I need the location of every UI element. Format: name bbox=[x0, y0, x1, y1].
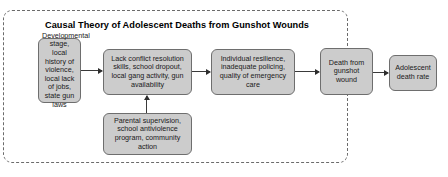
node-death-from-gunshot-wound[interactable]: Death from gunshot wound bbox=[320, 48, 373, 95]
node-lack-conflict-resolution[interactable]: Lack conflict resolution skills, school … bbox=[103, 49, 192, 95]
node-parental-supervision[interactable]: Parental supervision, school antiviolenc… bbox=[103, 113, 192, 155]
arrow-right-icon-death-to-rate bbox=[373, 72, 388, 73]
diagram-title: Causal Theory of Adolescent Deaths from … bbox=[18, 20, 336, 31]
arrow-up-icon-parental-to-conflict bbox=[146, 96, 147, 113]
node-individual-resilience[interactable]: Individual resilience, inadequate polici… bbox=[211, 49, 295, 95]
arrow-right-icon-conflict-to-resilience bbox=[192, 71, 210, 72]
node-parental-supervision-label: Parental supervision, school antiviolenc… bbox=[107, 117, 188, 151]
arrow-right-icon-resilience-to-death bbox=[295, 71, 319, 72]
diagram-canvas: Causal Theory of Adolescent Deaths from … bbox=[0, 0, 448, 177]
node-lack-conflict-resolution-label: Lack conflict resolution skills, school … bbox=[107, 55, 188, 89]
node-adolescent-death-rate[interactable]: Adolescent death rate bbox=[389, 55, 437, 91]
arrow-right-icon-developmental-to-conflict bbox=[81, 70, 102, 71]
node-adolescent-death-rate-label: Adolescent death rate bbox=[393, 64, 433, 81]
node-developmental-stage-label: Developmental stage, local history of vi… bbox=[42, 32, 77, 109]
node-developmental-stage[interactable]: Developmental stage, local history of vi… bbox=[38, 38, 81, 103]
node-death-from-gunshot-wound-label: Death from gunshot wound bbox=[324, 59, 369, 85]
node-individual-resilience-label: Individual resilience, inadequate polici… bbox=[215, 55, 291, 89]
